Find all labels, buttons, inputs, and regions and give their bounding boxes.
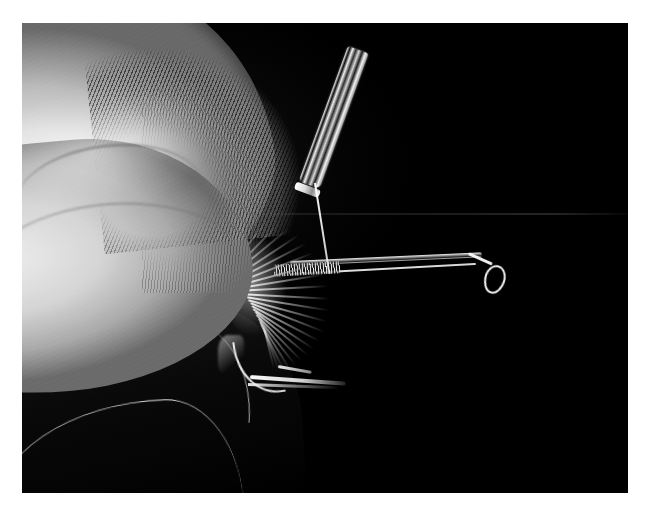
page-root: Black and white macro photograph of a fl…	[0, 0, 648, 505]
photograph	[22, 23, 628, 493]
hook-eye-loop	[481, 263, 509, 297]
photo-content	[22, 23, 628, 493]
photo-caption: Black and white macro photograph of a fl…	[0, 0, 1, 1]
hook-eye	[473, 254, 512, 293]
